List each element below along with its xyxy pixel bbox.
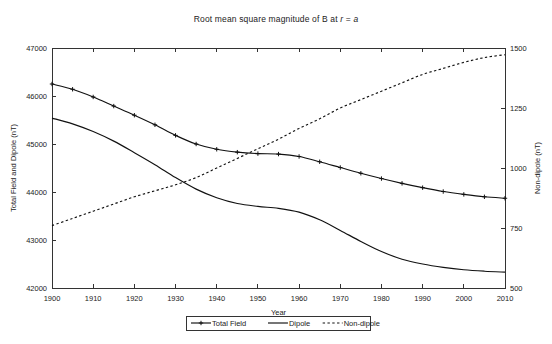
legend-label-total-field: Total Field — [212, 319, 246, 328]
x-tick-label: 2000 — [455, 294, 472, 303]
x-tick-label: 1920 — [126, 294, 143, 303]
x-tick-label: 1980 — [373, 294, 390, 303]
x-tick-label: 1950 — [250, 294, 267, 303]
x-tick-label: 1910 — [85, 294, 102, 303]
y-left-tick-label: 43000 — [26, 236, 47, 245]
plot-canvas: 1900191019201930194019501960197019801990… — [0, 0, 552, 344]
x-tick-label: 1960 — [291, 294, 308, 303]
legend-label-dipole: Dipole — [289, 319, 310, 328]
y-left-tick-label: 45000 — [26, 140, 47, 149]
x-tick-label: 1970 — [332, 294, 349, 303]
x-tick-label: 1990 — [414, 294, 431, 303]
y-left-tick-label: 47000 — [26, 44, 47, 53]
y-axis-right-title: Non-dipole (nT) — [533, 141, 542, 194]
x-tick-label: 2010 — [497, 294, 514, 303]
y-right-tick-label: 1000 — [510, 164, 527, 173]
legend-label-non-dipole: Non-dipole — [344, 319, 380, 328]
y-left-tick-label: 44000 — [26, 188, 47, 197]
y-left-tick-label: 42000 — [26, 284, 47, 293]
y-right-tick-label: 500 — [510, 284, 523, 293]
series-non-dipole — [52, 55, 505, 226]
chart-figure: Root mean square magnitude of B at r = a… — [0, 0, 552, 344]
x-tick-label: 1900 — [44, 294, 61, 303]
series-dipole — [52, 118, 505, 272]
x-tick-label: 1940 — [208, 294, 225, 303]
x-tick-label: 1930 — [167, 294, 184, 303]
plot-frame — [52, 48, 505, 288]
y-right-tick-label: 750 — [510, 224, 523, 233]
y-axis-left-title: Total Field and Dipole (nT) — [9, 124, 18, 212]
y-right-tick-label: 1250 — [510, 104, 527, 113]
series-total-field — [52, 84, 505, 198]
y-right-tick-label: 1500 — [510, 44, 527, 53]
y-left-tick-label: 46000 — [26, 92, 47, 101]
